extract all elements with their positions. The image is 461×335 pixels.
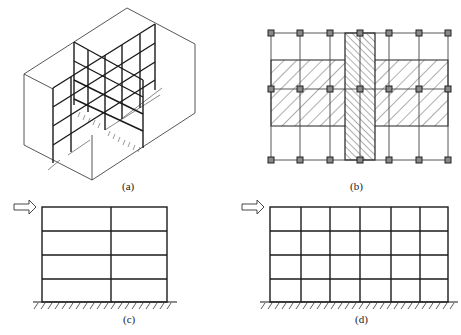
column-marker: [386, 30, 392, 36]
column-marker: [357, 157, 363, 163]
column-marker: [416, 86, 422, 92]
column-marker: [327, 86, 333, 92]
panel-label-d: (d): [355, 313, 368, 325]
column-marker: [268, 30, 274, 36]
column-marker: [357, 30, 363, 36]
load-arrow-icon: [242, 200, 264, 214]
column-marker: [386, 157, 392, 163]
panel-d-frame-6bay: [242, 200, 458, 309]
panel-label-b: (b): [350, 180, 363, 192]
fixed-ground-hatch: [34, 303, 171, 309]
volume-outline: [24, 8, 195, 180]
column-marker: [297, 157, 303, 163]
column-marker: [445, 157, 451, 163]
column-marker: [268, 157, 274, 163]
panel-c-frame-2bay: [14, 200, 177, 309]
column-marker: [445, 30, 451, 36]
diagram-canvas: [0, 0, 461, 335]
column-marker: [445, 86, 451, 92]
column-marker: [386, 86, 392, 92]
panel-label-a: (a): [122, 180, 134, 192]
column-marker: [327, 157, 333, 163]
column-marker: [416, 157, 422, 163]
column-marker: [297, 86, 303, 92]
panel-b-plan: [268, 30, 451, 163]
column-marker: [297, 30, 303, 36]
load-arrow-icon: [14, 200, 36, 214]
column-marker: [327, 30, 333, 36]
panel-a-3d-frame: [24, 8, 195, 180]
column-marker: [268, 86, 274, 92]
panel-label-c: (c): [123, 313, 135, 325]
column-marker: [357, 86, 363, 92]
fixed-ground-hatch: [261, 303, 454, 309]
column-marker: [416, 30, 422, 36]
